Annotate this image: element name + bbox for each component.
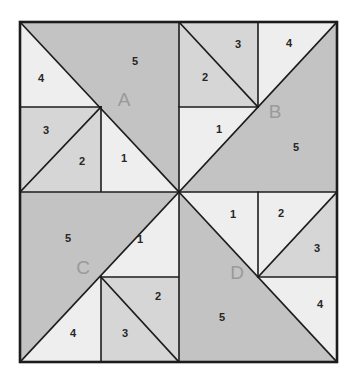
quadrant-label-c: C [76, 257, 90, 278]
region-number-b-2: 2 [202, 71, 208, 83]
region-number-a-1: 1 [121, 152, 127, 164]
quadrant-d: D 1 2 3 4 5 [179, 192, 337, 362]
region-number-b-1: 1 [216, 123, 222, 135]
region-number-a-4: 4 [38, 72, 45, 84]
region-number-c-1: 1 [137, 233, 143, 245]
diagram-canvas: A 1 2 3 4 5 B 1 2 3 4 [0, 0, 356, 383]
region-number-d-3: 3 [314, 242, 320, 254]
region-number-b-5: 5 [293, 141, 299, 153]
region-number-d-1: 1 [230, 208, 236, 220]
region-number-d-2: 2 [278, 207, 284, 219]
region-number-a-3: 3 [43, 124, 49, 136]
tangram-dissection-figure: A 1 2 3 4 5 B 1 2 3 4 [0, 0, 356, 383]
region-number-b-4: 4 [286, 37, 293, 49]
quadrant-a: A 1 2 3 4 5 [20, 22, 179, 192]
quadrant-c: C 1 2 3 4 5 [20, 192, 179, 362]
region-number-b-3: 3 [235, 38, 241, 50]
region-number-a-2: 2 [79, 155, 85, 167]
quadrant-label-b: B [269, 101, 282, 122]
quadrant-label-a: A [118, 89, 131, 110]
region-number-c-5: 5 [65, 232, 71, 244]
quadrant-b: B 1 2 3 4 5 [179, 22, 337, 192]
region-number-c-4: 4 [70, 327, 77, 339]
region-number-d-4: 4 [317, 298, 324, 310]
quadrant-label-d: D [230, 262, 244, 283]
region-number-a-5: 5 [132, 55, 138, 67]
region-number-d-5: 5 [219, 311, 225, 323]
region-number-c-2: 2 [155, 290, 161, 302]
region-number-c-3: 3 [122, 327, 128, 339]
